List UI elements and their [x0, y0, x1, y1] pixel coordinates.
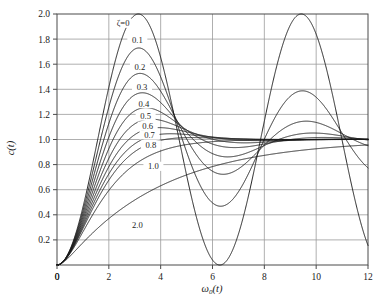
y-tick-label: 0.8: [38, 160, 50, 170]
step-response-chart: 024681012 0.20.40.60.81.01.21.41.61.82.0…: [0, 0, 384, 304]
y-tick-label: 1.4: [38, 85, 50, 95]
curve-label-2.0: 2.0: [132, 220, 143, 230]
chart-background: [0, 0, 384, 304]
curve-label-0.4: 0.4: [138, 99, 149, 109]
y-tick-label: 1.2: [38, 110, 50, 120]
y-tick-label: 0.6: [38, 185, 50, 195]
curve-label-0.2: 0.2: [135, 62, 146, 72]
origin-label: 0: [55, 272, 60, 282]
y-tick-label: 0.4: [38, 210, 50, 220]
curve-label-0.7: 0.7: [144, 130, 155, 140]
y-tick-label: 1.8: [38, 35, 50, 45]
curve-label-0.5: 0.5: [140, 111, 151, 121]
curve-label-0.8: 0.8: [145, 140, 156, 150]
curve-label-0.1: 0.1: [132, 35, 143, 45]
y-axis-title: c(t): [5, 140, 17, 155]
y-tick-label: 1.6: [38, 60, 50, 70]
omega-glyph: ω: [202, 283, 209, 294]
chart-canvas: 024681012 0.20.40.60.81.01.21.41.61.82.0…: [0, 0, 384, 304]
x-tick-label: 8: [262, 272, 267, 282]
x-tick-label: 2: [106, 272, 111, 282]
y-tick-label: 2.0: [38, 9, 50, 19]
y-tick-label: 1.0: [38, 135, 50, 145]
curve-label-0.3: 0.3: [137, 82, 148, 92]
time-arg: (t): [213, 283, 223, 295]
x-tick-label: 12: [363, 272, 373, 282]
y-tick-label: 0.2: [38, 235, 50, 245]
curve-label-ζ=0: ζ=0: [117, 18, 130, 28]
x-tick-label: 10: [311, 272, 321, 282]
curve-label-1.0: 1.0: [148, 161, 159, 171]
x-tick-label: 4: [158, 272, 163, 282]
x-tick-label: 6: [210, 272, 215, 282]
